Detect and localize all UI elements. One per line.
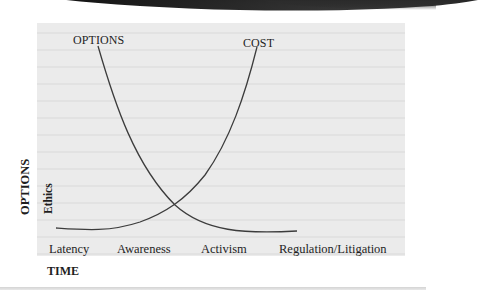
y-axis-secondary-label: Ethics [43, 183, 55, 214]
x-tick-awareness: Awareness [117, 243, 171, 256]
x-tick-latency: Latency [49, 243, 89, 256]
options-curve [98, 46, 297, 232]
x-tick-activism: Activism [201, 243, 247, 256]
y-axis-label: OPTIONS [19, 159, 32, 215]
page-bottom-rule [0, 287, 426, 290]
cost-series-label: COST [243, 37, 274, 49]
cost-curve [56, 47, 257, 230]
x-axis-label: TIME [47, 265, 79, 277]
x-tick-regulation-litigation: Regulation/Litigation [279, 243, 387, 256]
options-series-label: OPTIONS [73, 34, 124, 46]
